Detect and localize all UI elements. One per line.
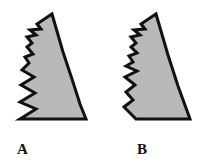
shape-label-b: B <box>137 142 147 157</box>
shape-b-graphic <box>104 0 208 130</box>
figure-panel: A B <box>0 0 208 165</box>
shape-label-a: A <box>17 142 28 157</box>
shape-a-graphic <box>0 0 104 130</box>
jagged-triangle-b-path <box>124 14 190 119</box>
jagged-triangle-a-path <box>20 14 86 119</box>
